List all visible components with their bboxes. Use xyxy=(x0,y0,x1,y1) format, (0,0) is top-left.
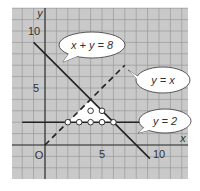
x-tick-label-5: 5 xyxy=(99,148,105,160)
integer-point xyxy=(111,119,117,125)
y-tick-label-10: 10 xyxy=(28,25,40,37)
callout-y-equals-2: y = 2 xyxy=(138,109,191,133)
callout-text: y = x xyxy=(150,74,175,86)
integer-point xyxy=(88,119,94,125)
integer-point xyxy=(99,119,105,125)
callout-text: x + y = 8 xyxy=(70,39,114,51)
x-tick-label-10: 10 xyxy=(153,148,165,160)
integer-point xyxy=(88,108,94,114)
integer-point xyxy=(76,119,82,125)
origin-label: O xyxy=(35,149,44,161)
y-tick-label-5: 5 xyxy=(33,82,39,94)
integer-point xyxy=(65,119,71,125)
integer-point xyxy=(99,108,105,114)
x-axis-label: x xyxy=(179,132,186,144)
coordinate-graph: x + y = 8y = xy = 2 x y O 5 10 5 10 xyxy=(0,0,200,191)
callout-text: y = 2 xyxy=(152,115,177,127)
